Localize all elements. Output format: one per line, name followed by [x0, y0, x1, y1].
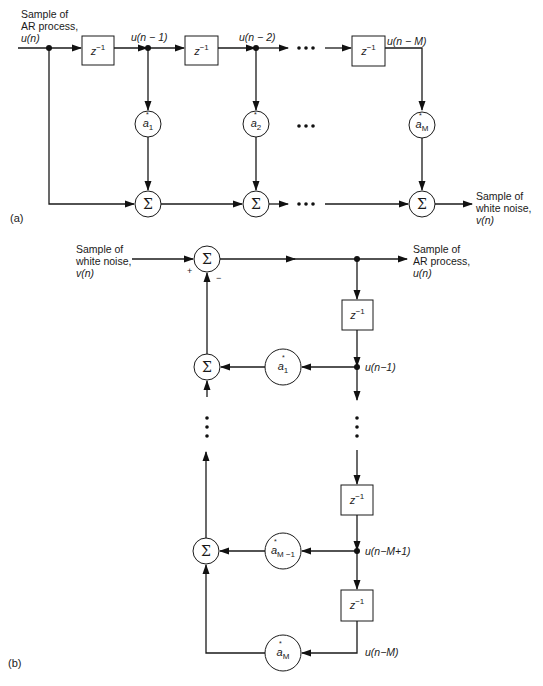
input-label-line: Sample of [21, 8, 78, 20]
delay-operator: z−1 [342, 307, 373, 321]
input-label-line: AR process, [21, 20, 78, 32]
input-signal-name: v(n) [76, 267, 131, 279]
coef-index: 2 [257, 123, 261, 132]
input-label: Sample of AR process, u(n) [21, 8, 78, 44]
input-label-line: Sample of [76, 243, 131, 255]
coefficient-label: a2* [243, 117, 269, 132]
output-label-line: white noise, [476, 202, 531, 214]
sigma-icon: Σ [409, 191, 435, 217]
output-label-line: Sample of [413, 243, 470, 255]
output-signal-name: u(n) [413, 267, 470, 279]
output-label-line: AR process, [413, 255, 470, 267]
ellipsis-icon [297, 46, 315, 206]
junction-node [46, 45, 52, 51]
coef-index: 1 [149, 123, 153, 132]
tap-label: u(n−1) [365, 361, 396, 373]
delay-operator: z−1 [341, 492, 373, 506]
tap-label: u(n − 1) [131, 31, 167, 43]
coefficient-label: a1* [265, 360, 301, 375]
coefficient-label: aM −1* [265, 544, 301, 559]
delay-operator: z−1 [185, 43, 218, 57]
output-signal-name: v(n) [476, 214, 531, 226]
plus-sign: + [187, 266, 192, 276]
sigma-icon: Σ [193, 538, 219, 564]
tap-label: u(n−M+1) [365, 545, 411, 557]
output-label: Sample of white noise, v(n) [476, 190, 531, 226]
tap-label: u(n − 2) [239, 31, 275, 43]
part-b-label: (b) [8, 657, 21, 669]
junction-node [354, 256, 360, 262]
coef-index: M [422, 124, 429, 133]
part-a-label: (a) [10, 212, 23, 224]
input-signal-name: u(n) [21, 32, 78, 44]
delay-exponent: −1 [96, 43, 105, 52]
minus-sign: − [216, 273, 221, 283]
conjugate-mark: * [146, 111, 149, 118]
conjugate-mark: * [274, 538, 277, 545]
coefficient-label: aM* [265, 646, 301, 661]
sigma-icon: Σ [194, 246, 220, 272]
delay-operator: z−1 [352, 43, 385, 57]
coef-index: 1 [284, 366, 288, 375]
coef-index: M [283, 652, 290, 661]
delay-operator: z−1 [82, 43, 114, 57]
junction-node [354, 364, 360, 370]
input-label: Sample of white noise, v(n) [76, 243, 131, 279]
sigma-icon: Σ [194, 354, 220, 380]
input-label-line: white noise, [76, 255, 131, 267]
sigma-icon: Σ [243, 191, 269, 217]
delay-exponent: −1 [200, 43, 209, 52]
coef-index: M −1 [277, 550, 295, 559]
output-label-line: Sample of [476, 190, 531, 202]
coefficient-label: aM* [409, 118, 435, 133]
conjugate-mark: * [282, 354, 285, 361]
vertical-ellipsis-icon [205, 416, 359, 438]
diagram-canvas [0, 0, 543, 686]
delay-exponent: −1 [355, 597, 364, 606]
conjugate-mark: * [419, 112, 422, 119]
tap-label: u(n − M) [387, 35, 426, 47]
tap-label: u(n−M) [365, 646, 399, 658]
junction-node [354, 548, 360, 554]
output-label: Sample of AR process, u(n) [413, 243, 470, 279]
conjugate-mark: * [254, 111, 257, 118]
delay-exponent: −1 [367, 43, 376, 52]
delay-operator: z−1 [341, 597, 373, 611]
delay-exponent: −1 [356, 307, 365, 316]
junction-node [253, 45, 259, 51]
conjugate-mark: * [279, 640, 282, 647]
junction-node [145, 45, 151, 51]
coefficient-label: a1* [135, 117, 161, 132]
sigma-icon: Σ [135, 191, 161, 217]
delay-exponent: −1 [355, 492, 364, 501]
